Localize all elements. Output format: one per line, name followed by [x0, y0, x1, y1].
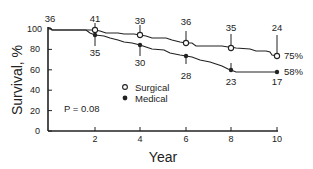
- surgical-n-8: 35: [226, 22, 237, 33]
- medical-n-2: 35: [90, 47, 101, 58]
- medical-curve: [48, 28, 277, 72]
- y-tick-40: 40: [30, 85, 40, 95]
- x-tick-8: 8: [228, 134, 233, 144]
- surgical-n-4: 39: [135, 15, 146, 26]
- legend-open-circle-icon: [123, 85, 128, 90]
- x-tick-4: 4: [137, 134, 142, 144]
- x-axis-label: Year: [149, 149, 178, 165]
- legend-surgical: Surgical: [135, 82, 169, 93]
- legend-medical: Medical: [135, 93, 168, 104]
- medical-n-4: 30: [135, 57, 146, 68]
- x-ticks: 2 4 6 8 10: [92, 127, 282, 144]
- y-tick-80: 80: [30, 44, 40, 54]
- x-tick-6: 6: [183, 134, 188, 144]
- y-axis-label: Survival, %: [9, 45, 25, 115]
- legend: Surgical Medical: [123, 82, 170, 104]
- y-tick-20: 20: [30, 106, 40, 116]
- surgical-n-6: 36: [181, 16, 192, 27]
- surgical-end-label: 75%: [284, 50, 304, 61]
- surgical-n-10: 24: [272, 22, 283, 33]
- x-tick-2: 2: [92, 134, 97, 144]
- surgical-n-2: 41: [90, 13, 101, 24]
- y-tick-100: 100: [27, 24, 42, 34]
- y-tick-60: 60: [30, 65, 40, 75]
- start-n-label: 36: [45, 13, 56, 24]
- medical-n-6: 28: [181, 70, 192, 81]
- medical-end-label: 58%: [284, 66, 304, 77]
- surgical-curve: [48, 28, 277, 56]
- p-value-annotation: P = 0.08: [64, 103, 99, 114]
- x-tick-10: 10: [272, 134, 282, 144]
- legend-filled-circle-icon: [123, 96, 128, 101]
- survival-chart: 0 20 40 60 80 100 2 4 6 8 10 Survival, %…: [0, 0, 313, 169]
- medical-n-10: 17: [272, 76, 283, 87]
- y-tick-0: 0: [35, 126, 40, 136]
- medical-n-8: 23: [226, 76, 237, 87]
